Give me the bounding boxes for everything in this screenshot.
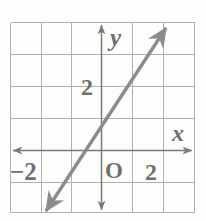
- origin-label: O: [105, 158, 123, 183]
- x-tick-label-neg2: −2: [10, 158, 37, 185]
- coordinate-plane-svg: y x 2 −2 O 2: [0, 0, 206, 221]
- x-tick-label-2: 2: [145, 159, 157, 185]
- coordinate-plane-figure: y x 2 −2 O 2: [0, 0, 206, 221]
- y-tick-label-2: 2: [81, 74, 93, 100]
- x-axis-label: x: [171, 120, 184, 146]
- y-axis-label: y: [107, 24, 122, 51]
- plot-background: [10, 22, 195, 213]
